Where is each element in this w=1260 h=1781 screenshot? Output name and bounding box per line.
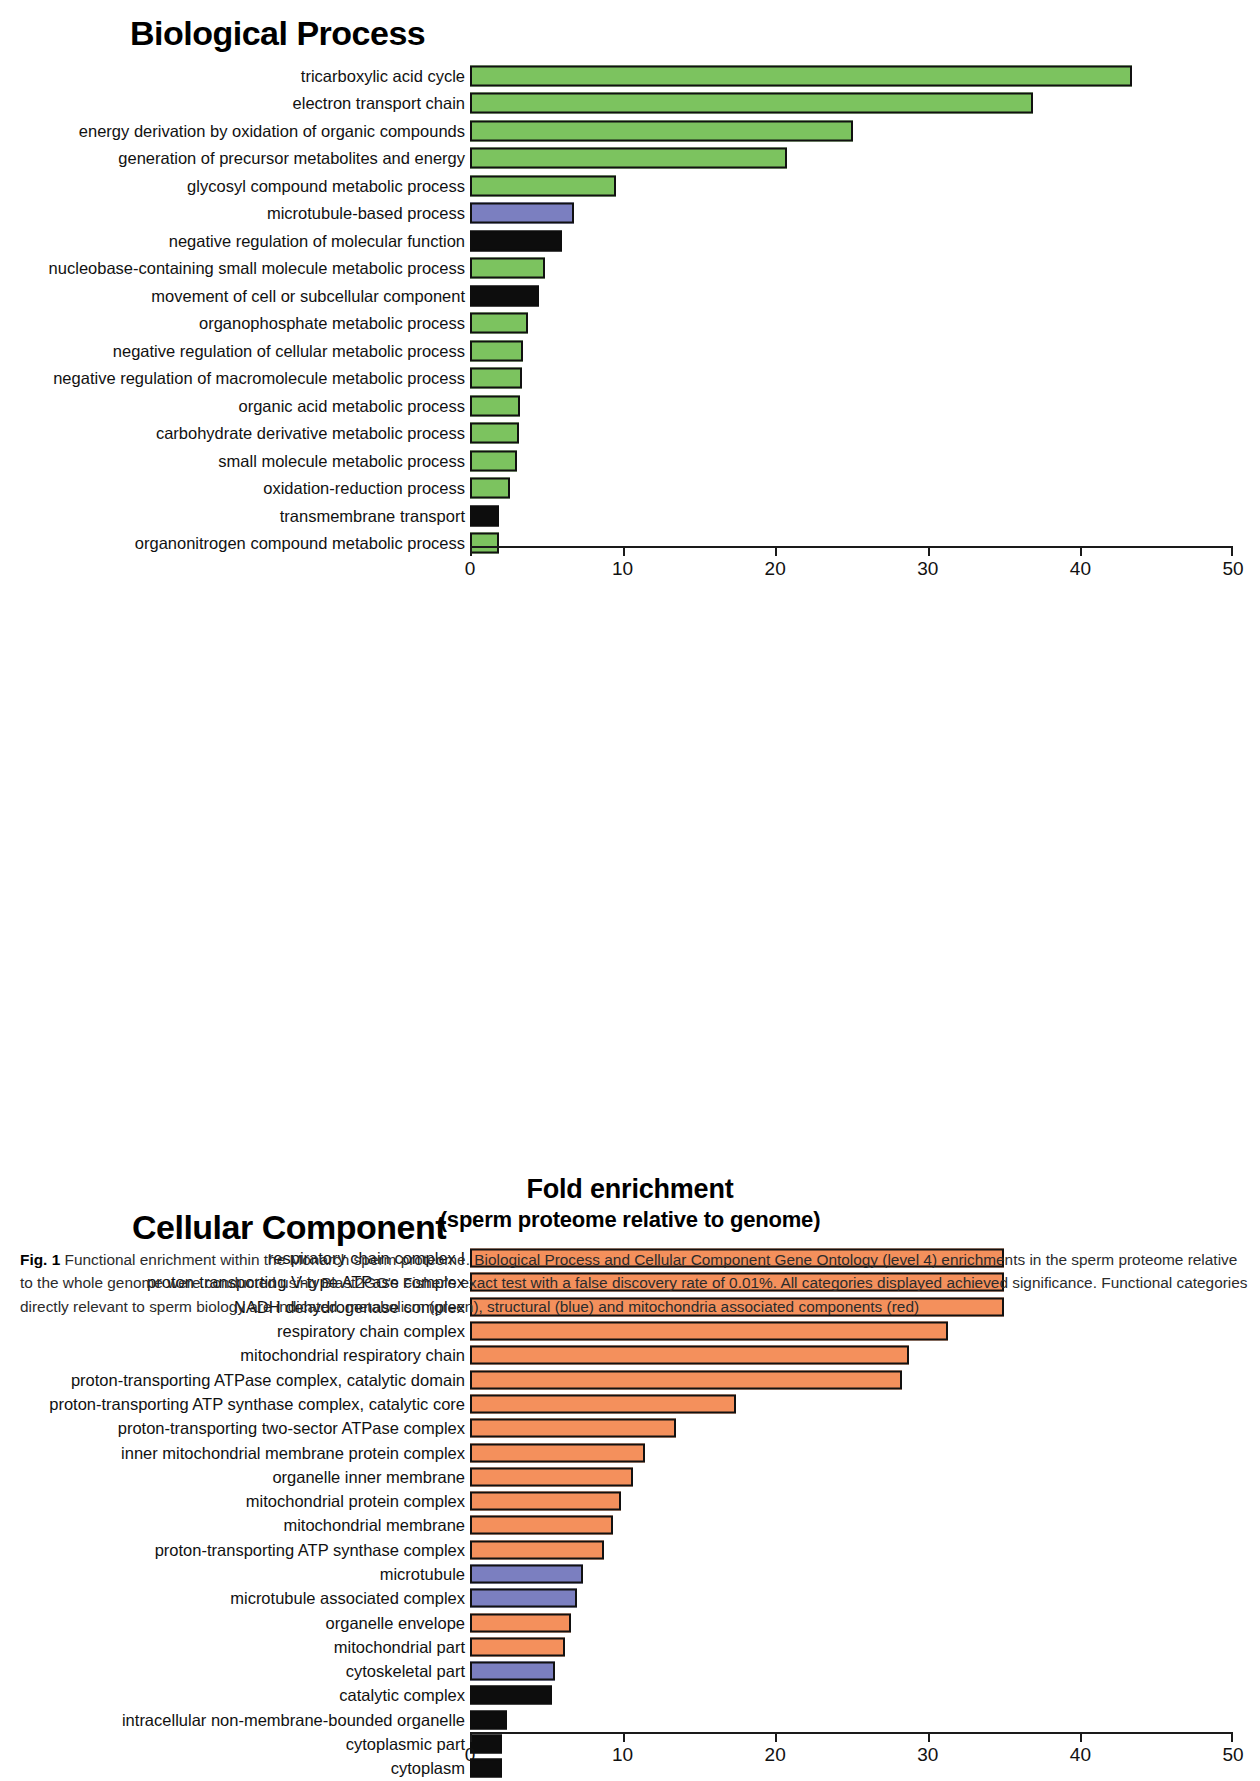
biological-process-bar-rows: tricarboxylic acid cycleelectron transpo… bbox=[0, 62, 1260, 557]
axis-tick bbox=[1231, 546, 1233, 556]
bar-row: microtubule bbox=[0, 1562, 1260, 1586]
bar-category-label: microtubule bbox=[380, 1566, 465, 1583]
axis-tick-label: 30 bbox=[917, 558, 938, 580]
axis-tick bbox=[1080, 546, 1082, 556]
axis-tick-label: 0 bbox=[465, 558, 476, 580]
bar bbox=[470, 1467, 633, 1486]
bar bbox=[470, 1686, 552, 1705]
bar bbox=[470, 1419, 676, 1438]
bar-category-label: tricarboxylic acid cycle bbox=[301, 68, 465, 85]
bar-category-label: proton-transporting two-sector ATPase co… bbox=[118, 1420, 465, 1437]
axis-tick-label: 50 bbox=[1222, 1744, 1243, 1766]
bar bbox=[470, 1443, 645, 1462]
bar bbox=[470, 395, 520, 416]
axis-tick-label: 20 bbox=[765, 1744, 786, 1766]
axis-tick bbox=[470, 1732, 472, 1742]
bar-row: nucleobase-containing small molecule met… bbox=[0, 255, 1260, 283]
bar-row: mitochondrial part bbox=[0, 1635, 1260, 1659]
bar-row: negative regulation of molecular functio… bbox=[0, 227, 1260, 255]
axis-tick bbox=[470, 546, 472, 556]
bar-category-label: energy derivation by oxidation of organi… bbox=[79, 123, 465, 140]
bar-category-label: mitochondrial protein complex bbox=[246, 1493, 465, 1510]
bar-category-label: proton-transporting ATP synthase complex… bbox=[49, 1396, 465, 1413]
bar bbox=[470, 93, 1033, 114]
biological-process-x-axis: 01020304050 bbox=[0, 536, 1260, 588]
bar bbox=[470, 175, 616, 196]
bar bbox=[470, 1322, 948, 1341]
axis-tick bbox=[928, 546, 930, 556]
bar-category-label: microtubule-based process bbox=[267, 205, 465, 222]
bar-category-label: carbohydrate derivative metabolic proces… bbox=[156, 425, 465, 442]
x-axis-title-sub: (sperm proteome relative to genome) bbox=[0, 1207, 1260, 1233]
axis-tick-label: 30 bbox=[917, 1744, 938, 1766]
bar-row: proton-transporting ATP synthase complex bbox=[0, 1538, 1260, 1562]
bar-row: tricarboxylic acid cycle bbox=[0, 62, 1260, 90]
bar bbox=[470, 203, 574, 224]
bar-category-label: inner mitochondrial membrane protein com… bbox=[121, 1444, 465, 1461]
bar-category-label: negative regulation of molecular functio… bbox=[169, 233, 465, 250]
figure-caption-text: Functional enrichment within the Monarch… bbox=[20, 1251, 1248, 1315]
bar-row: carbohydrate derivative metabolic proces… bbox=[0, 420, 1260, 448]
bar-row: organelle inner membrane bbox=[0, 1465, 1260, 1489]
bar-category-label: microtubule associated complex bbox=[230, 1590, 465, 1607]
bar bbox=[470, 1565, 583, 1584]
bar-category-label: mitochondrial respiratory chain bbox=[240, 1347, 465, 1364]
x-axis-title: Fold enrichment (sperm proteome relative… bbox=[0, 1174, 1260, 1233]
bar-row: microtubule associated complex bbox=[0, 1586, 1260, 1610]
bar-category-label: cytoskeletal part bbox=[346, 1663, 465, 1680]
bar bbox=[470, 1540, 604, 1559]
bar bbox=[470, 1637, 565, 1656]
bar-row: microtubule-based process bbox=[0, 200, 1260, 228]
axis-tick bbox=[775, 546, 777, 556]
axis-line bbox=[470, 1732, 1233, 1734]
bar bbox=[470, 148, 787, 169]
x-axis-title-main: Fold enrichment bbox=[0, 1174, 1260, 1205]
bar-row: proton-transporting ATP synthase complex… bbox=[0, 1392, 1260, 1416]
bar-row: movement of cell or subcellular componen… bbox=[0, 282, 1260, 310]
bar bbox=[470, 450, 517, 471]
bar bbox=[470, 230, 562, 251]
bar-row: electron transport chain bbox=[0, 90, 1260, 118]
figure-number: Fig. 1 bbox=[20, 1251, 60, 1268]
bar-category-label: generation of precursor metabolites and … bbox=[118, 150, 465, 167]
bar-row: organelle envelope bbox=[0, 1610, 1260, 1634]
cellular-component-x-axis: 01020304050 bbox=[0, 1722, 1260, 1774]
bar-category-label: proton-transporting ATPase complex, cata… bbox=[71, 1371, 465, 1388]
bar bbox=[470, 1613, 571, 1632]
bar-row: transmembrane transport bbox=[0, 502, 1260, 530]
axis-tick bbox=[623, 546, 625, 556]
bar-row: catalytic complex bbox=[0, 1683, 1260, 1707]
bar-row: energy derivation by oxidation of organi… bbox=[0, 117, 1260, 145]
bar bbox=[470, 478, 510, 499]
bar-row: negative regulation of macromolecule met… bbox=[0, 365, 1260, 393]
axis-tick-label: 10 bbox=[612, 558, 633, 580]
bar-row: organic acid metabolic process bbox=[0, 392, 1260, 420]
axis-tick bbox=[928, 1732, 930, 1742]
bar-row: small molecule metabolic process bbox=[0, 447, 1260, 475]
bar-category-label: negative regulation of cellular metaboli… bbox=[113, 343, 465, 360]
bar-row: mitochondrial protein complex bbox=[0, 1489, 1260, 1513]
bar-category-label: organophosphate metabolic process bbox=[199, 315, 465, 332]
bar-row: oxidation-reduction process bbox=[0, 475, 1260, 503]
figure-caption: Fig. 1 Functional enrichment within the … bbox=[20, 1248, 1250, 1318]
bar-row: negative regulation of cellular metaboli… bbox=[0, 337, 1260, 365]
bar-category-label: respiratory chain complex bbox=[277, 1323, 465, 1340]
bar bbox=[470, 258, 545, 279]
bar-category-label: organelle envelope bbox=[326, 1614, 465, 1631]
bar bbox=[470, 1589, 577, 1608]
bar-row: proton-transporting two-sector ATPase co… bbox=[0, 1416, 1260, 1440]
axis-tick-label: 40 bbox=[1070, 1744, 1091, 1766]
axis-tick-label: 10 bbox=[612, 1744, 633, 1766]
bar bbox=[470, 120, 853, 141]
bar bbox=[470, 285, 539, 306]
bar-category-label: small molecule metabolic process bbox=[218, 453, 465, 470]
bar bbox=[470, 65, 1132, 86]
bar-category-label: nucleobase-containing small molecule met… bbox=[49, 260, 465, 277]
bar-row: mitochondrial membrane bbox=[0, 1513, 1260, 1537]
bar-row: organophosphate metabolic process bbox=[0, 310, 1260, 338]
bar bbox=[470, 368, 522, 389]
bar-category-label: catalytic complex bbox=[339, 1687, 465, 1704]
axis-line bbox=[470, 546, 1233, 548]
bar-category-label: organic acid metabolic process bbox=[238, 398, 465, 415]
bar-category-label: organelle inner membrane bbox=[272, 1469, 465, 1486]
